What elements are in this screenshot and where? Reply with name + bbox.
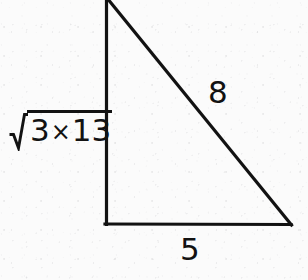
triangle-hypotenuse	[107, 0, 292, 225]
vertical-leg-length-label: 3×13	[8, 110, 112, 151]
radicand-left-operand: 3	[30, 112, 50, 148]
worksheet-figure-canvas: 3×13 8 5	[0, 0, 308, 280]
base-length-label: 5	[180, 234, 200, 265]
triangle-base-leg	[105, 224, 291, 225]
radicand-right-operand: 13	[72, 112, 111, 148]
square-root-icon	[8, 111, 28, 151]
multiplication-sign: ×	[50, 118, 72, 146]
radicand-expression: 3×13	[27, 110, 112, 146]
hypotenuse-length-label: 8	[208, 77, 228, 108]
